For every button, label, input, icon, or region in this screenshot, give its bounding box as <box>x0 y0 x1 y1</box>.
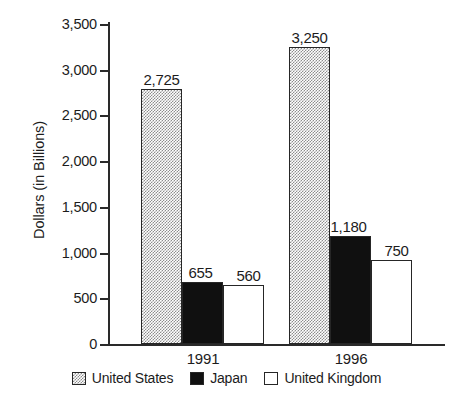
bar-1996-japan: 1,180 <box>330 236 371 344</box>
legend-swatch-icon <box>72 372 86 385</box>
legend-item-united-kingdom: United Kingdom <box>264 370 381 386</box>
y-tick-label: 0 <box>89 336 97 352</box>
y-tick-label: 2,000 <box>62 153 97 169</box>
bar-1991-united-kingdom: 560 <box>223 285 264 344</box>
plot-area: 3,500 3,000 2,500 2,000 1,500 1,000 500 <box>108 24 445 344</box>
bar-value-label: 3,250 <box>291 29 327 46</box>
bar-value-label: 655 <box>188 264 212 281</box>
x-axis-line <box>108 344 445 346</box>
y-tick-label: 1,000 <box>62 245 97 261</box>
legend-swatch-icon <box>264 372 278 385</box>
y-axis-title: Dollars (in Billions) <box>26 20 52 340</box>
legend-item-united-states: United States <box>72 370 173 386</box>
bar-chart: Dollars (in Billions) 3,500 3,000 2,500 … <box>0 0 453 406</box>
bar-value-label: 560 <box>236 267 260 284</box>
bar-1996-united-kingdom: 750 <box>371 260 412 344</box>
bar-1996-united-states: 3,250 <box>289 47 330 344</box>
bar-value-label: 750 <box>384 242 408 259</box>
bar-1991-japan: 655 <box>182 282 223 344</box>
bar-value-label: 2,725 <box>143 71 179 88</box>
bar-1991-united-states: 2,725 <box>141 89 182 344</box>
chart-legend: United States Japan United Kingdom <box>0 370 453 386</box>
y-tick-label: 500 <box>73 290 97 306</box>
legend-item-japan: Japan <box>190 370 247 386</box>
y-tick-label: 3,000 <box>62 62 97 78</box>
y-tick-label: 2,500 <box>62 107 97 123</box>
y-tick-label: 3,500 <box>62 16 97 32</box>
legend-label: United Kingdom <box>284 370 381 386</box>
x-category-label-1996: 1996 <box>310 350 392 367</box>
legend-label: United States <box>92 370 173 386</box>
bar-value-label: 1,180 <box>330 218 366 235</box>
x-category-label-1991: 1991 <box>162 350 244 367</box>
legend-swatch-icon <box>190 372 204 385</box>
y-tick-label: 1,500 <box>62 199 97 215</box>
legend-label: Japan <box>210 370 247 386</box>
